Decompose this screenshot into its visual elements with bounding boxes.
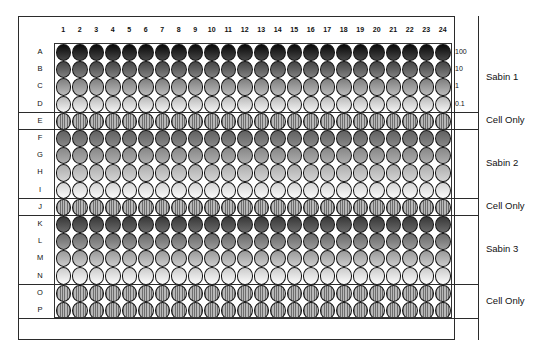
well-O14[interactable] bbox=[270, 285, 287, 302]
well-D1[interactable] bbox=[55, 96, 72, 113]
well-C23[interactable] bbox=[418, 78, 435, 95]
well-N20[interactable] bbox=[369, 267, 386, 284]
well-N11[interactable] bbox=[220, 267, 237, 284]
well-N18[interactable] bbox=[336, 267, 353, 284]
well-J3[interactable] bbox=[88, 199, 105, 216]
well-L8[interactable] bbox=[171, 233, 188, 250]
well-I17[interactable] bbox=[319, 182, 336, 199]
well-M15[interactable] bbox=[286, 250, 303, 267]
well-L15[interactable] bbox=[286, 233, 303, 250]
well-O3[interactable] bbox=[88, 285, 105, 302]
well-F15[interactable] bbox=[286, 130, 303, 147]
well-I11[interactable] bbox=[220, 182, 237, 199]
well-F19[interactable] bbox=[352, 130, 369, 147]
well-B22[interactable] bbox=[402, 61, 419, 78]
well-G15[interactable] bbox=[286, 147, 303, 164]
well-L5[interactable] bbox=[121, 233, 138, 250]
well-D2[interactable] bbox=[72, 96, 89, 113]
well-B2[interactable] bbox=[72, 61, 89, 78]
well-F14[interactable] bbox=[270, 130, 287, 147]
well-M18[interactable] bbox=[336, 250, 353, 267]
well-I7[interactable] bbox=[154, 182, 171, 199]
well-D11[interactable] bbox=[220, 96, 237, 113]
well-I15[interactable] bbox=[286, 182, 303, 199]
well-H17[interactable] bbox=[319, 164, 336, 181]
well-D8[interactable] bbox=[171, 96, 188, 113]
well-G12[interactable] bbox=[237, 147, 254, 164]
well-P21[interactable] bbox=[385, 302, 402, 318]
well-C7[interactable] bbox=[154, 78, 171, 95]
well-J12[interactable] bbox=[237, 199, 254, 216]
well-J19[interactable] bbox=[352, 199, 369, 216]
well-K7[interactable] bbox=[154, 216, 171, 233]
well-G6[interactable] bbox=[138, 147, 155, 164]
well-H4[interactable] bbox=[105, 164, 122, 181]
well-K12[interactable] bbox=[237, 216, 254, 233]
well-F23[interactable] bbox=[418, 130, 435, 147]
well-M20[interactable] bbox=[369, 250, 386, 267]
well-I9[interactable] bbox=[187, 182, 204, 199]
well-I8[interactable] bbox=[171, 182, 188, 199]
well-J14[interactable] bbox=[270, 199, 287, 216]
well-P2[interactable] bbox=[72, 302, 89, 318]
well-D17[interactable] bbox=[319, 96, 336, 113]
well-O2[interactable] bbox=[72, 285, 89, 302]
well-N14[interactable] bbox=[270, 267, 287, 284]
well-E10[interactable] bbox=[204, 113, 221, 130]
well-I6[interactable] bbox=[138, 182, 155, 199]
well-L16[interactable] bbox=[303, 233, 320, 250]
well-H14[interactable] bbox=[270, 164, 287, 181]
well-L7[interactable] bbox=[154, 233, 171, 250]
well-C11[interactable] bbox=[220, 78, 237, 95]
well-O5[interactable] bbox=[121, 285, 138, 302]
well-F12[interactable] bbox=[237, 130, 254, 147]
well-I2[interactable] bbox=[72, 182, 89, 199]
well-F21[interactable] bbox=[385, 130, 402, 147]
well-I16[interactable] bbox=[303, 182, 320, 199]
well-L24[interactable] bbox=[435, 233, 452, 250]
well-M3[interactable] bbox=[88, 250, 105, 267]
well-G5[interactable] bbox=[121, 147, 138, 164]
well-L14[interactable] bbox=[270, 233, 287, 250]
well-N6[interactable] bbox=[138, 267, 155, 284]
well-E24[interactable] bbox=[435, 113, 452, 130]
well-O4[interactable] bbox=[105, 285, 122, 302]
well-P5[interactable] bbox=[121, 302, 138, 318]
well-L13[interactable] bbox=[253, 233, 270, 250]
well-B1[interactable] bbox=[55, 61, 72, 78]
well-H9[interactable] bbox=[187, 164, 204, 181]
well-J24[interactable] bbox=[435, 199, 452, 216]
well-H5[interactable] bbox=[121, 164, 138, 181]
well-O22[interactable] bbox=[402, 285, 419, 302]
well-D7[interactable] bbox=[154, 96, 171, 113]
well-B20[interactable] bbox=[369, 61, 386, 78]
well-A12[interactable] bbox=[237, 44, 254, 61]
well-C24[interactable] bbox=[435, 78, 452, 95]
well-L20[interactable] bbox=[369, 233, 386, 250]
well-N19[interactable] bbox=[352, 267, 369, 284]
well-K20[interactable] bbox=[369, 216, 386, 233]
well-N21[interactable] bbox=[385, 267, 402, 284]
well-N17[interactable] bbox=[319, 267, 336, 284]
well-M17[interactable] bbox=[319, 250, 336, 267]
well-K16[interactable] bbox=[303, 216, 320, 233]
well-P9[interactable] bbox=[187, 302, 204, 318]
well-J6[interactable] bbox=[138, 199, 155, 216]
well-P3[interactable] bbox=[88, 302, 105, 318]
well-D23[interactable] bbox=[418, 96, 435, 113]
well-B10[interactable] bbox=[204, 61, 221, 78]
well-O11[interactable] bbox=[220, 285, 237, 302]
well-M5[interactable] bbox=[121, 250, 138, 267]
well-L2[interactable] bbox=[72, 233, 89, 250]
well-B19[interactable] bbox=[352, 61, 369, 78]
well-H6[interactable] bbox=[138, 164, 155, 181]
well-C5[interactable] bbox=[121, 78, 138, 95]
well-P1[interactable] bbox=[55, 302, 72, 318]
well-F13[interactable] bbox=[253, 130, 270, 147]
well-P18[interactable] bbox=[336, 302, 353, 318]
well-C20[interactable] bbox=[369, 78, 386, 95]
well-N9[interactable] bbox=[187, 267, 204, 284]
well-F3[interactable] bbox=[88, 130, 105, 147]
well-G24[interactable] bbox=[435, 147, 452, 164]
well-N16[interactable] bbox=[303, 267, 320, 284]
